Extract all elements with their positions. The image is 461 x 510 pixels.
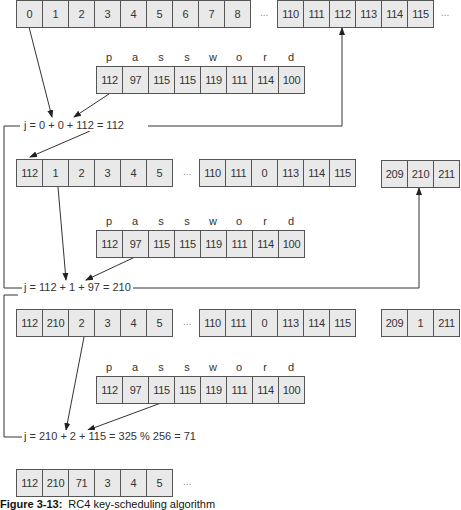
- s-cell: 211: [434, 310, 459, 336]
- ellipsis: ...: [260, 7, 268, 18]
- key-cell: 119: [201, 377, 227, 403]
- figure-caption: Figure 3-13:RC4 key-scheduling algorithm: [0, 498, 215, 510]
- s-array-final: 112 210 71 3 4 5: [16, 469, 173, 497]
- key-labels-step3: p a s s w o r d: [96, 361, 304, 373]
- key-cell: 97: [123, 231, 149, 257]
- s-cell: 110: [278, 1, 304, 27]
- caption-label: Figure 3-13:: [0, 498, 62, 510]
- key-cell: 115: [175, 377, 201, 403]
- ellipsis: ...: [183, 476, 191, 487]
- s-cell: 112: [17, 310, 43, 336]
- s-cell: 1: [43, 160, 69, 186]
- key-char: w: [200, 51, 226, 63]
- key-char: s: [174, 215, 200, 227]
- s-cell: 210: [408, 161, 434, 187]
- s-cell: 4: [121, 160, 147, 186]
- key-char: s: [148, 51, 174, 63]
- key-char: s: [174, 51, 200, 63]
- s-cell: 5: [147, 1, 173, 27]
- key-char: o: [226, 51, 252, 63]
- key-array-step2: 112 97 115 115 119 111 114 100: [96, 230, 305, 258]
- key-char: p: [96, 361, 122, 373]
- s-cell: 114: [304, 310, 330, 336]
- key-cell: 100: [279, 67, 304, 93]
- s-cell: 2: [69, 160, 95, 186]
- s-array-step1-left: 0 1 2 3 4 5 6 7 8: [16, 0, 251, 28]
- formula-step1: j = 0 + 0 + 112 = 112: [22, 119, 126, 131]
- ellipsis: ...: [441, 7, 449, 18]
- s-cell: 4: [121, 470, 147, 496]
- ellipsis: ...: [183, 316, 191, 327]
- key-cell: 115: [149, 67, 175, 93]
- s-cell: 6: [173, 1, 199, 27]
- key-cell: 114: [253, 67, 279, 93]
- s-cell: 113: [278, 310, 304, 336]
- s-cell: 211: [434, 161, 459, 187]
- key-cell: 111: [227, 67, 253, 93]
- key-char: p: [96, 215, 122, 227]
- key-char: w: [200, 215, 226, 227]
- s-cell: 4: [121, 1, 147, 27]
- s-cell: 113: [278, 160, 304, 186]
- s-array-step3-left: 112 210 2 3 4 5: [16, 309, 173, 337]
- s-cell: 3: [95, 310, 121, 336]
- key-labels-step1: p a s s w o r d: [96, 51, 304, 63]
- s-cell: 114: [304, 160, 330, 186]
- formula-step2: j = 112 + 1 + 97 = 210: [22, 281, 133, 293]
- s-cell: 3: [95, 160, 121, 186]
- s-cell: 114: [382, 1, 408, 27]
- s-cell: 111: [226, 160, 252, 186]
- s-cell: 5: [147, 310, 172, 336]
- key-array-step3: 112 97 115 115 119 111 114 100: [96, 376, 305, 404]
- key-array-step1: 112 97 115 115 119 111 114 100: [96, 66, 305, 94]
- key-cell: 115: [175, 67, 201, 93]
- key-cell: 114: [253, 231, 279, 257]
- s-cell: 112: [330, 1, 356, 27]
- s-cell: 4: [121, 310, 147, 336]
- key-cell: 112: [97, 377, 123, 403]
- key-labels-step2: p a s s w o r d: [96, 215, 304, 227]
- s-array-step1-right: 110 111 112 113 114 115: [277, 0, 434, 28]
- key-char: p: [96, 51, 122, 63]
- s-array-step3-right: 110 111 0 113 114 115: [199, 309, 356, 337]
- key-char: d: [278, 361, 304, 373]
- s-cell: 111: [304, 1, 330, 27]
- key-cell: 114: [253, 377, 279, 403]
- key-char: a: [122, 215, 148, 227]
- key-cell: 111: [227, 231, 253, 257]
- s-cell: 71: [69, 470, 95, 496]
- s-cell: 2: [69, 1, 95, 27]
- key-char: o: [226, 361, 252, 373]
- s-cell: 0: [252, 160, 278, 186]
- s-cell: 115: [330, 160, 355, 186]
- s-array-step2-far: 209 210 211: [381, 160, 460, 188]
- s-cell: 0: [17, 1, 43, 27]
- key-cell: 100: [279, 231, 304, 257]
- s-cell: 5: [147, 160, 172, 186]
- s-cell: 1: [43, 1, 69, 27]
- key-cell: 112: [97, 231, 123, 257]
- key-char: s: [174, 361, 200, 373]
- s-cell: 1: [408, 310, 434, 336]
- s-cell: 5: [147, 470, 172, 496]
- s-cell: 8: [225, 1, 250, 27]
- s-cell: 110: [200, 160, 226, 186]
- key-char: r: [252, 361, 278, 373]
- key-cell: 119: [201, 67, 227, 93]
- s-cell: 111: [226, 310, 252, 336]
- s-array-step2-left: 112 1 2 3 4 5: [16, 159, 173, 187]
- s-cell: 113: [356, 1, 382, 27]
- s-cell: 115: [408, 1, 433, 27]
- ellipsis: ...: [183, 166, 191, 177]
- key-char: r: [252, 51, 278, 63]
- s-cell: 115: [330, 310, 355, 336]
- key-char: r: [252, 215, 278, 227]
- s-cell: 209: [382, 310, 408, 336]
- s-cell: 112: [17, 470, 43, 496]
- key-cell: 115: [149, 377, 175, 403]
- key-char: o: [226, 215, 252, 227]
- s-cell: 110: [200, 310, 226, 336]
- s-array-step3-far: 209 1 211: [381, 309, 460, 337]
- key-char: d: [278, 51, 304, 63]
- key-char: d: [278, 215, 304, 227]
